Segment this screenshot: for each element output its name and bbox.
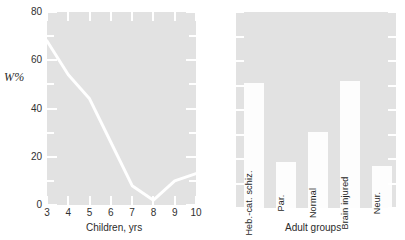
y-minor-tick-right — [189, 83, 196, 85]
x-major-tick — [152, 196, 154, 205]
bar-axis-tick — [236, 36, 244, 38]
bar: Neur. — [372, 166, 392, 208]
y-minor-tick-right — [189, 132, 196, 134]
y-minor-tick — [47, 83, 54, 85]
bar-label: Neur. — [372, 192, 382, 215]
x-major-tick — [174, 196, 176, 205]
x-major-tick — [67, 196, 69, 205]
line-chart-plot-area — [47, 12, 196, 205]
x-major-tick-top — [67, 12, 69, 21]
bar-axis-tick — [236, 85, 244, 87]
bar-axis-tick-right — [388, 158, 396, 160]
bar-axis-tick-right — [388, 183, 396, 185]
bar-axis-tick — [236, 134, 244, 136]
y-major-tick — [47, 156, 57, 158]
bar-axis-tick-right — [388, 85, 396, 87]
bar-axis-tick — [236, 109, 244, 111]
y-tick-label: 20 — [2, 152, 42, 162]
y-minor-tick-right — [189, 35, 196, 37]
bar-label: Heb.-cat. schiz. — [244, 170, 254, 235]
bar-chart-x-axis-title: Adult groups — [285, 222, 341, 233]
bar-axis-tick-right — [388, 109, 396, 111]
bar-axis-tick-right — [388, 207, 396, 209]
y-major-tick-right — [186, 156, 196, 158]
bar: Brain injured — [340, 81, 360, 208]
y-major-tick — [47, 11, 57, 13]
bar-axis-tick-right — [388, 36, 396, 38]
x-major-tick-top — [195, 12, 197, 21]
bar-axis-tick — [236, 158, 244, 160]
figure-root: 020406080 345678910 W% Children, yrs Heb… — [0, 0, 405, 240]
y-major-tick — [47, 108, 57, 110]
y-major-tick — [47, 204, 57, 206]
bar-axis-tick — [236, 183, 244, 185]
bar-chart-plot-area: Heb.-cat. schiz.Par.NormalBrain injuredN… — [236, 12, 396, 208]
bar-label: Brain injured — [340, 176, 350, 229]
bar-axis-tick — [236, 207, 244, 209]
y-major-tick-right — [186, 59, 196, 61]
y-tick-label: 60 — [2, 55, 42, 65]
y-minor-tick — [47, 180, 54, 182]
x-major-tick-top — [46, 12, 48, 21]
x-tick-label: 10 — [185, 208, 207, 218]
x-tick-label: 9 — [164, 208, 186, 218]
x-tick-label: 5 — [79, 208, 101, 218]
bar-axis-tick-right — [388, 11, 396, 13]
x-major-tick-top — [110, 12, 112, 21]
line-chart-y-axis-title: W% — [4, 70, 25, 85]
y-minor-tick — [47, 35, 54, 37]
y-minor-tick-right — [189, 180, 196, 182]
bar: Heb.-cat. schiz. — [244, 83, 264, 208]
x-major-tick-top — [174, 12, 176, 21]
line-series-curve — [47, 12, 196, 205]
y-minor-tick — [47, 132, 54, 134]
x-tick-label: 8 — [142, 208, 164, 218]
x-tick-label: 7 — [121, 208, 143, 218]
line-chart-x-axis-title: Children, yrs — [86, 222, 142, 233]
y-tick-label: 40 — [2, 104, 42, 114]
x-major-tick-top — [131, 12, 133, 21]
x-major-tick — [195, 196, 197, 205]
x-major-tick — [89, 196, 91, 205]
bar-axis-tick — [236, 11, 244, 13]
bar-label: Par. — [276, 195, 286, 212]
x-major-tick — [110, 196, 112, 205]
bar: Normal — [308, 132, 328, 208]
bar-axis-tick-right — [388, 134, 396, 136]
x-major-tick-top — [89, 12, 91, 21]
bar: Par. — [276, 162, 296, 209]
bar-axis-tick — [236, 60, 244, 62]
x-major-tick — [131, 196, 133, 205]
y-major-tick-right — [186, 108, 196, 110]
bar-label: Normal — [308, 188, 318, 218]
x-major-tick — [46, 196, 48, 205]
y-major-tick — [47, 59, 57, 61]
x-major-tick-top — [152, 12, 154, 21]
bar-axis-tick-right — [388, 60, 396, 62]
x-tick-label: 3 — [36, 208, 58, 218]
x-tick-label: 6 — [100, 208, 122, 218]
x-tick-label: 4 — [57, 208, 79, 218]
y-tick-label: 80 — [2, 7, 42, 17]
